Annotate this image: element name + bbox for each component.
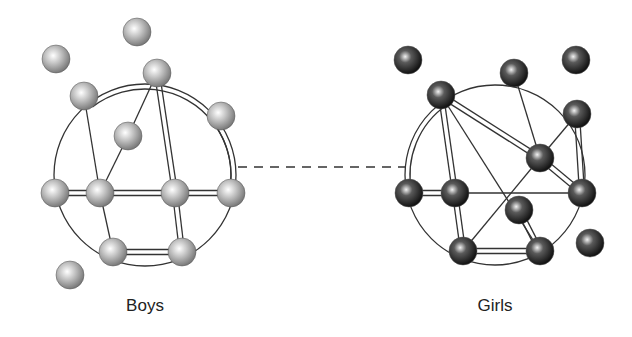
girl-double-tie <box>442 93 541 156</box>
girl-node <box>427 81 455 109</box>
boy-node <box>217 179 245 207</box>
girl-node <box>576 229 604 257</box>
girl-node <box>395 179 423 207</box>
boy-node <box>114 122 142 150</box>
girl-node <box>441 179 469 207</box>
boy-node <box>41 179 69 207</box>
girl-node <box>526 237 554 265</box>
boys-label: Boys <box>126 296 164 316</box>
girls-network <box>394 46 604 265</box>
girl-node <box>562 46 590 74</box>
boy-node <box>99 238 127 266</box>
boy-node <box>56 261 84 289</box>
girl-node <box>505 196 533 224</box>
girls-label: Girls <box>478 296 513 316</box>
boy-single-tie <box>84 96 100 193</box>
girl-node <box>563 100 591 128</box>
boy-node <box>123 18 151 46</box>
girl-single-tie <box>441 95 540 251</box>
boy-node <box>168 238 196 266</box>
girl-node <box>500 59 528 87</box>
girl-node <box>394 46 422 74</box>
boy-node <box>70 82 98 110</box>
boy-node <box>161 179 189 207</box>
boy-node <box>86 179 114 207</box>
girl-node <box>568 179 596 207</box>
girl-node <box>449 237 477 265</box>
boy-node <box>143 59 171 87</box>
social-network-diagram <box>0 0 632 337</box>
boy-node <box>207 102 235 130</box>
girl-group-circle <box>405 85 585 265</box>
boys-network <box>41 18 245 289</box>
boy-node <box>42 45 70 73</box>
girl-node <box>526 144 554 172</box>
